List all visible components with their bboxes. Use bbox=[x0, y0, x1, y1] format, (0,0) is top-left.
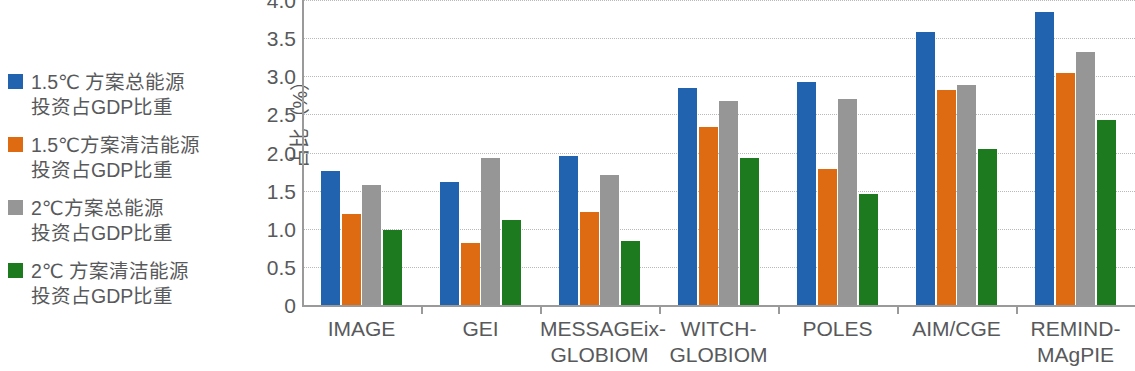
legend-item-label: 2℃方案总能源 投资占GDP比重 bbox=[31, 196, 173, 246]
x-axis-tick-label: AIM/CGE bbox=[897, 316, 1016, 342]
legend-item-label: 1.5℃方案清洁能源 投资占GDP比重 bbox=[31, 133, 200, 183]
legend-swatch-icon bbox=[8, 137, 23, 152]
x-axis-tick-label: WITCH- GLOBIOM bbox=[659, 316, 778, 368]
bar-group bbox=[897, 0, 1016, 305]
x-axis-tick-label: POLES bbox=[778, 316, 897, 342]
y-axis-tick-label: 1.5 bbox=[267, 180, 296, 201]
y-axis-tick-label: 0.5 bbox=[267, 256, 296, 277]
y-axis-tick-labels: 4.03.53.02.52.01.51.00.50 bbox=[252, 0, 296, 305]
bar[interactable] bbox=[580, 212, 599, 305]
x-axis-tick-mark bbox=[897, 306, 899, 314]
y-axis-tick-label: 4.0 bbox=[267, 0, 296, 11]
bar-group bbox=[778, 0, 897, 305]
bar[interactable] bbox=[957, 85, 976, 305]
bar[interactable] bbox=[1097, 120, 1116, 305]
legend-item-1p5c-clean-energy[interactable]: 1.5℃方案清洁能源 投资占GDP比重 bbox=[8, 133, 228, 183]
legend-swatch-icon bbox=[8, 263, 23, 278]
y-axis-tick-label: 3.0 bbox=[267, 66, 296, 87]
bars-container bbox=[302, 0, 1135, 305]
x-axis-tick-label: GEI bbox=[421, 316, 540, 342]
legend-item-1p5c-total-energy[interactable]: 1.5℃ 方案总能源 投资占GDP比重 bbox=[8, 70, 228, 120]
legend-item-label: 2℃ 方案清洁能源 投资占GDP比重 bbox=[31, 259, 189, 309]
bar[interactable] bbox=[838, 99, 857, 305]
bar[interactable] bbox=[937, 90, 956, 305]
bar[interactable] bbox=[461, 243, 480, 305]
legend-swatch-icon bbox=[8, 74, 23, 89]
bar[interactable] bbox=[1076, 52, 1095, 305]
plot-area: 占比（%） 4.03.53.02.52.01.51.00.50 IMAGEGEI… bbox=[238, 0, 1135, 371]
bar[interactable] bbox=[502, 220, 521, 305]
bar-group bbox=[659, 0, 778, 305]
x-axis-tick-label: MESSAGEix- GLOBIOM bbox=[540, 316, 659, 368]
bar[interactable] bbox=[440, 182, 459, 305]
x-axis-tick-mark bbox=[540, 306, 542, 314]
bar[interactable] bbox=[1056, 73, 1075, 305]
bar[interactable] bbox=[719, 101, 738, 305]
y-axis-tick-label: 0 bbox=[284, 295, 296, 316]
bar[interactable] bbox=[342, 214, 361, 305]
bar[interactable] bbox=[678, 88, 697, 305]
bar[interactable] bbox=[740, 158, 759, 305]
x-axis-tick-label: IMAGE bbox=[302, 316, 421, 342]
bar[interactable] bbox=[978, 149, 997, 305]
bar[interactable] bbox=[797, 82, 816, 305]
chart-root: 1.5℃ 方案总能源 投资占GDP比重1.5℃方案清洁能源 投资占GDP比重2℃… bbox=[0, 0, 1135, 371]
bar[interactable] bbox=[321, 171, 340, 305]
y-axis-tick-label: 1.0 bbox=[267, 218, 296, 239]
x-axis-tick-mark bbox=[659, 306, 661, 314]
bar[interactable] bbox=[818, 169, 837, 305]
legend-item-2c-clean-energy[interactable]: 2℃ 方案清洁能源 投资占GDP比重 bbox=[8, 259, 228, 309]
bar-group bbox=[540, 0, 659, 305]
bar[interactable] bbox=[383, 230, 402, 305]
x-axis-tick-mark bbox=[778, 306, 780, 314]
chart-legend: 1.5℃ 方案总能源 投资占GDP比重1.5℃方案清洁能源 投资占GDP比重2℃… bbox=[8, 70, 228, 322]
x-axis-line bbox=[302, 305, 1135, 307]
legend-item-label: 1.5℃ 方案总能源 投资占GDP比重 bbox=[31, 70, 185, 120]
legend-item-2c-total-energy[interactable]: 2℃方案总能源 投资占GDP比重 bbox=[8, 196, 228, 246]
x-axis-tick-mark bbox=[421, 306, 423, 314]
bar[interactable] bbox=[1035, 12, 1054, 305]
bar[interactable] bbox=[621, 241, 640, 305]
y-axis-tick-label: 3.5 bbox=[267, 28, 296, 49]
bar-group bbox=[302, 0, 421, 305]
x-axis-tick-label: REMIND- MAgPIE bbox=[1016, 316, 1135, 368]
legend-swatch-icon bbox=[8, 200, 23, 215]
bar[interactable] bbox=[699, 127, 718, 305]
bar[interactable] bbox=[600, 175, 619, 305]
bar-group bbox=[421, 0, 540, 305]
y-axis-tick-label: 2.0 bbox=[267, 142, 296, 163]
bar[interactable] bbox=[481, 158, 500, 305]
bar-group bbox=[1016, 0, 1135, 305]
bar[interactable] bbox=[559, 156, 578, 305]
bar[interactable] bbox=[916, 32, 935, 305]
x-axis-tick-labels: IMAGEGEIMESSAGEix- GLOBIOMWITCH- GLOBIOM… bbox=[302, 316, 1135, 371]
bar[interactable] bbox=[859, 194, 878, 305]
bar[interactable] bbox=[362, 185, 381, 305]
y-axis-tick-label: 2.5 bbox=[267, 104, 296, 125]
x-axis-tick-mark bbox=[1016, 306, 1018, 314]
